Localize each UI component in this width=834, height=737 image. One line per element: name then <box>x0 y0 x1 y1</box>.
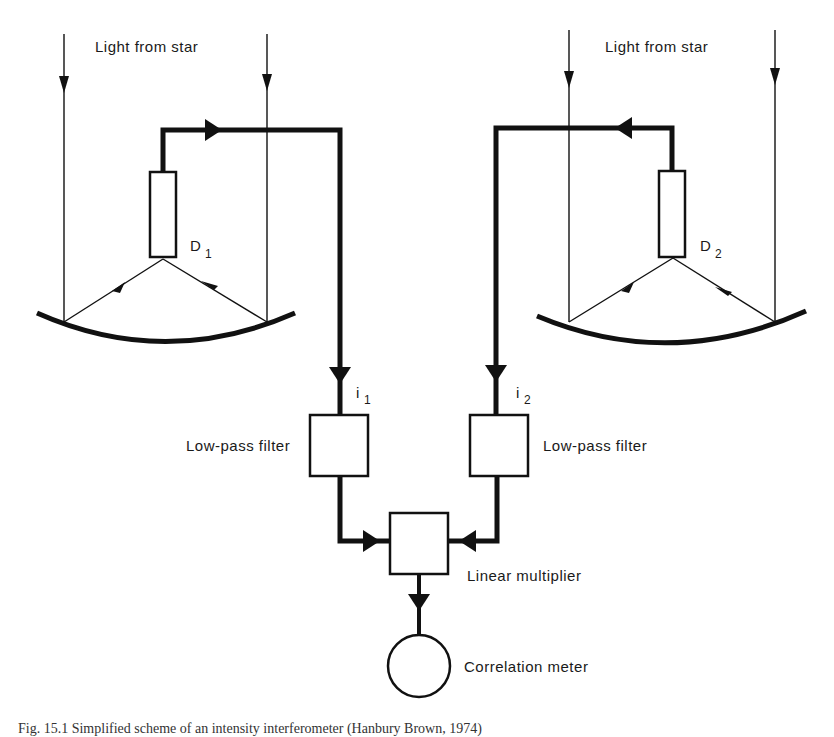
correlation-meter-circle <box>388 635 450 697</box>
figure-caption: Fig. 15.1 Simplified scheme of an intens… <box>18 721 482 737</box>
correlation-meter-label: Correlation meter <box>464 658 588 675</box>
down-arrow-icon <box>59 76 69 93</box>
right-arrow-icon <box>363 530 380 552</box>
linear-multiplier-label: Linear multiplier <box>467 567 581 584</box>
up-arrow-icon <box>112 282 125 293</box>
current-i2-label: i <box>516 384 520 401</box>
down-arrow-icon <box>564 71 574 88</box>
right-low-pass-filter <box>470 415 528 476</box>
left-filter-label: Low-pass filter <box>186 437 290 454</box>
current-i2-subscript: 2 <box>524 393 531 407</box>
right-signal-wire <box>496 128 672 420</box>
detector-d1-subscript: 1 <box>205 247 212 261</box>
detector-d1-label: D <box>190 237 201 254</box>
down-arrow-icon <box>262 74 272 91</box>
down-arrow-icon <box>329 367 351 384</box>
light-from-star-label-left: Light from star <box>95 38 198 55</box>
detector-d1 <box>150 172 176 257</box>
current-i1-label: i <box>356 384 360 401</box>
detector-letter: D <box>190 237 201 254</box>
up-arrow-icon <box>715 287 732 296</box>
left-mirror <box>37 313 295 342</box>
linear-multiplier-box <box>390 513 448 574</box>
right-filter-label: Low-pass filter <box>543 437 647 454</box>
current-i1-subscript: 1 <box>364 393 371 407</box>
detector-d2-label: D <box>700 237 711 254</box>
left-arrow-icon <box>459 530 476 552</box>
left-arrow-icon <box>615 117 632 139</box>
detector-d2-subscript: 2 <box>715 247 722 261</box>
up-arrow-icon <box>621 282 634 293</box>
left-telescope <box>37 34 390 552</box>
left-low-pass-filter <box>310 415 368 476</box>
right-arrow-icon <box>205 119 222 141</box>
down-arrow-icon <box>770 68 780 85</box>
up-arrow-icon <box>201 281 218 290</box>
light-from-star-label-right: Light from star <box>605 38 708 55</box>
down-arrow-icon <box>485 365 507 382</box>
right-telescope <box>448 30 806 552</box>
down-arrow-icon <box>408 594 430 611</box>
multiplier-and-meter <box>388 513 450 697</box>
detector-d2 <box>659 171 685 257</box>
detector-letter: D <box>700 237 711 254</box>
